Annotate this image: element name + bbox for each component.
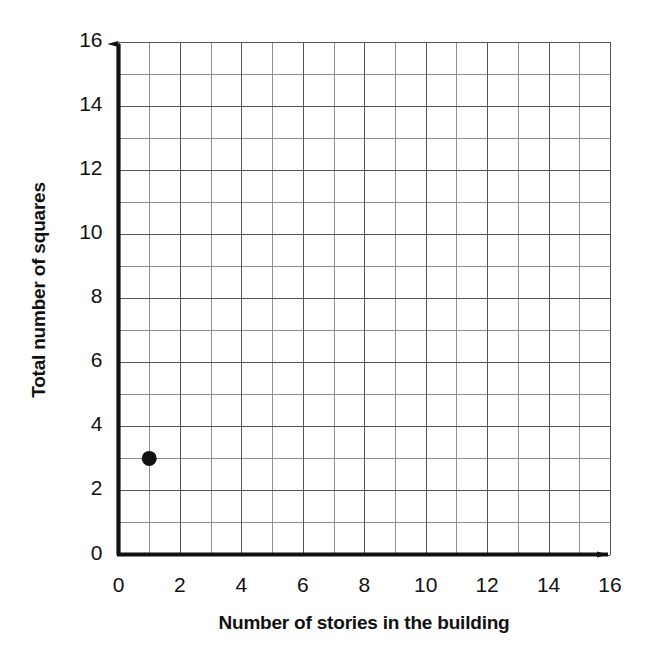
x-tick-label: 12 (467, 573, 507, 597)
scatter-plot-figure: 0246810121416 0246810121416 Total number… (0, 0, 652, 663)
y-tick-label: 4 (63, 412, 103, 436)
y-tick-label: 2 (63, 476, 103, 500)
x-tick-label: 10 (406, 573, 446, 597)
y-tick-label: 6 (63, 348, 103, 372)
y-tick-label: 14 (63, 92, 103, 116)
y-tick-label: 0 (63, 541, 103, 565)
x-tick-label: 14 (529, 573, 569, 597)
y-tick-label: 10 (63, 220, 103, 244)
data-point[interactable] (142, 451, 157, 466)
y-axis-title: Total number of squares (28, 25, 58, 555)
x-tick-label: 4 (221, 573, 261, 597)
x-tick-label: 6 (283, 573, 323, 597)
data-point-group (142, 451, 157, 466)
y-tick-label: 12 (63, 156, 103, 180)
x-tick-label: 0 (99, 573, 139, 597)
x-axis-title: Number of stories in the building (118, 612, 610, 634)
x-tick-label: 16 (590, 573, 630, 597)
x-tick-label: 2 (160, 573, 200, 597)
x-tick-label: 8 (344, 573, 384, 597)
y-tick-label: 16 (63, 28, 103, 52)
y-tick-label: 8 (63, 284, 103, 308)
